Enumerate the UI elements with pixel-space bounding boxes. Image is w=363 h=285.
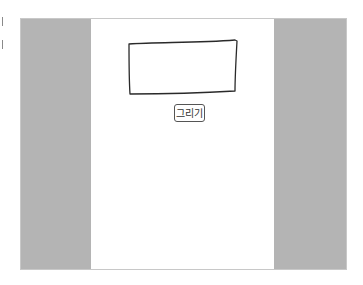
draw-button[interactable]: 그리기 [174, 104, 205, 122]
hand-drawn-rectangle [127, 39, 241, 97]
margin-tick-mark [2, 40, 3, 49]
drawing-canvas[interactable]: 그리기 [91, 19, 274, 269]
stage: 그리기 [20, 18, 347, 270]
margin-tick-mark [2, 17, 3, 26]
